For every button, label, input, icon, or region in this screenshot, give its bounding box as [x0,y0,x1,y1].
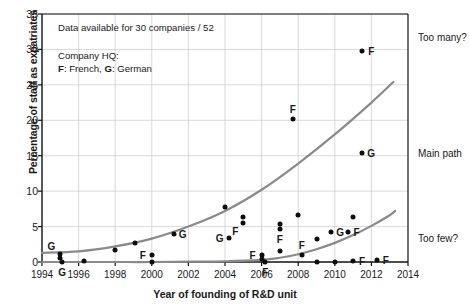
data-point-marker [82,259,87,264]
data-point-label-f: F [359,255,365,266]
data-point-label-f: F [383,254,389,265]
data-point-marker [351,258,356,263]
data-point-marker [133,240,138,245]
annotation-company-hq: Company HQ: [58,50,119,62]
annotation-hq-key: F: French, G: German [58,63,152,75]
data-point-label-g: G [58,267,66,278]
band-label-main-path: Main path [418,148,462,159]
data-point-label-g: G [216,232,224,243]
data-point-label-g: G [179,228,187,239]
data-point-label-f: F [299,239,305,250]
data-point-label-f: F [250,249,256,260]
data-point-marker [277,227,282,232]
data-point-marker [314,260,319,265]
data-point-label-f: F [140,249,146,260]
data-point-marker [149,260,154,265]
data-point-marker [374,257,379,262]
data-point-label-f: F [232,226,238,237]
data-point-marker [351,215,356,220]
data-point-marker [226,235,231,240]
data-point-marker [223,204,228,209]
data-point-label-f: F [354,226,360,237]
data-point-label-f: F [262,267,268,278]
expatriate-share-scatter-chart: Percentage of staff as expatriates Year … [0,0,469,308]
band-label-too-few: Too few? [418,233,458,244]
data-points: GGFGGFFFFFFGFFFGF [0,0,469,308]
data-point-marker [314,237,319,242]
data-point-marker [290,116,295,121]
band-label-too-many: Too many? [418,32,467,43]
data-point-label-g: G [47,241,55,252]
data-point-marker [360,150,365,155]
data-point-label-g: G [336,227,344,238]
data-point-marker [241,221,246,226]
data-point-marker [277,248,282,253]
data-point-marker [332,260,337,265]
data-point-marker [113,247,118,252]
key-g-letter: G [104,63,111,74]
data-point-marker [149,252,154,257]
data-point-marker [263,260,268,265]
data-point-label-f: F [368,45,374,56]
data-point-marker [241,214,246,219]
data-point-marker [360,48,365,53]
data-point-marker [296,213,301,218]
data-point-marker [299,252,304,257]
key-f-text: : French, [64,63,105,74]
data-point-label-f: F [290,103,296,114]
data-point-marker [60,260,65,265]
data-point-marker [345,229,350,234]
data-point-marker [329,230,334,235]
key-g-text: : German [112,63,152,74]
data-point-label-g: G [367,147,375,158]
annotation-data-available: Data available for 30 companies / 52 [58,22,214,34]
data-point-label-f: F [277,234,283,245]
data-point-marker [171,231,176,236]
